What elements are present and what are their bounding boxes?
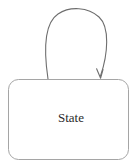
state-node[interactable]: State (9, 80, 129, 160)
self-transition-edge[interactable] (45, 9, 106, 79)
self-transition-arc[interactable] (45, 9, 106, 79)
state-diagram-canvas: State (0, 0, 138, 166)
state-node-label: State (58, 110, 84, 125)
diagram-svg: State (0, 0, 138, 166)
